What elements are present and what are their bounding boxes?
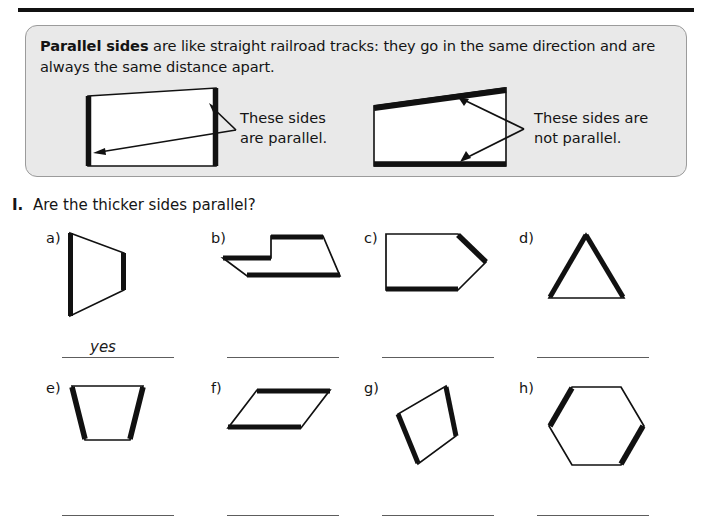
shape-d-outline xyxy=(549,234,624,298)
parallel-sides-info-box: Parallel sides are like straight railroa… xyxy=(25,25,687,177)
answer-slot-d[interactable] xyxy=(537,340,649,358)
shape-cell-c: c) xyxy=(358,228,513,333)
answer-slot-h[interactable] xyxy=(537,498,649,516)
shape-cell-f: f) xyxy=(205,378,360,483)
not-parallel-caption-line2: not parallel. xyxy=(534,128,648,148)
shape-cell-b: b) xyxy=(205,228,360,333)
shape-f-parallelogram-flat xyxy=(205,378,360,483)
shape-g-parallelogram-slanted xyxy=(358,378,513,483)
parallel-caption: These sides are parallel. xyxy=(240,108,327,148)
shape-cell-a: a) xyxy=(40,228,195,333)
shape-cell-e: e) xyxy=(40,378,195,483)
answer-rule-f xyxy=(227,515,339,516)
answer-slot-e[interactable] xyxy=(62,498,174,516)
shape-cell-d: d) xyxy=(513,228,668,333)
answer-rule-h xyxy=(537,515,649,516)
shape-c-pentagon-arrow xyxy=(358,228,513,333)
shape-h-hexagon xyxy=(513,378,668,483)
shape-e-trapezoid xyxy=(40,378,195,483)
info-term: Parallel sides xyxy=(40,37,149,54)
answer-rule-c xyxy=(382,357,494,358)
not-parallel-caption-line1: These sides are xyxy=(534,108,648,128)
shape-c-outline xyxy=(386,234,486,290)
shape-b-notched-hexagon xyxy=(205,228,360,333)
exercise-prompt: Are the thicker sides parallel? xyxy=(33,196,256,214)
answer-rule-a xyxy=(62,357,174,358)
diagram-not-parallel-example: These sides are not parallel. xyxy=(356,82,686,178)
answer-slot-g[interactable] xyxy=(382,498,494,516)
exercise-number: I. xyxy=(12,196,23,214)
shape-cell-h: h) xyxy=(513,378,668,483)
answer-rule-d xyxy=(537,357,649,358)
shape-cell-g: g) xyxy=(358,378,513,483)
shape-d-triangle xyxy=(513,228,668,333)
parallel-caption-line1: These sides xyxy=(240,108,327,128)
shape-a-trapezoid-pointing-right xyxy=(40,228,195,333)
answer-rule-e xyxy=(62,515,174,516)
answer-slot-b[interactable] xyxy=(227,340,339,358)
answer-slot-a[interactable]: yes xyxy=(62,340,174,358)
answer-slot-f[interactable] xyxy=(227,498,339,516)
not-parallel-caption: These sides are not parallel. xyxy=(534,108,648,148)
answer-slot-c[interactable] xyxy=(382,340,494,358)
top-horizontal-rule xyxy=(18,8,694,12)
answer-rule-g xyxy=(382,515,494,516)
answer-rule-b xyxy=(227,357,339,358)
parallel-caption-line2: are parallel. xyxy=(240,128,327,148)
info-box-text: Parallel sides are like straight railroa… xyxy=(40,35,674,77)
parallel-quad-outline xyxy=(88,88,216,166)
diagram-parallel-example: These sides are parallel. xyxy=(40,82,340,178)
answer-text-a: yes xyxy=(90,338,116,356)
shape-a-outline xyxy=(70,233,124,316)
shape-f-outline xyxy=(228,390,330,428)
